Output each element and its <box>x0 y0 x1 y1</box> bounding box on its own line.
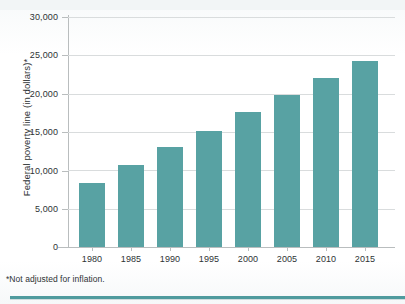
x-tick-label-2015: 2015 <box>341 254 389 264</box>
gridline-30000 <box>68 17 395 18</box>
chart-figure: Federal poverty line (in dollars)* 30,00… <box>0 0 405 304</box>
x-tick-mark <box>92 247 93 251</box>
bar-1990 <box>157 147 183 247</box>
x-tick-mark <box>248 247 249 251</box>
bar-2000 <box>235 112 261 247</box>
y-tick-label: 5,000 <box>0 204 58 214</box>
bar-1980 <box>79 183 105 247</box>
x-tick-mark <box>209 247 210 251</box>
y-axis-labels: 30,000 25,000 20,000 15,000 10,000 5,000… <box>0 0 58 304</box>
plot-area <box>68 17 395 247</box>
y-tick-label: 10,000 <box>0 166 58 176</box>
chart-footnote: *Not adjusted for inflation. <box>6 274 105 284</box>
x-tick-mark <box>131 247 132 251</box>
bar-1985 <box>118 165 144 247</box>
gridline-25000 <box>68 55 395 56</box>
y-tick-label: 0 <box>0 242 58 252</box>
gridline-15000 <box>68 132 395 133</box>
x-tick-mark <box>170 247 171 251</box>
scan-artifact <box>0 0 405 10</box>
bar-2010 <box>313 78 339 247</box>
accent-rule-shadow <box>10 299 405 300</box>
bar-2015 <box>352 61 378 247</box>
x-tick-mark <box>287 247 288 251</box>
y-tick-label: 30,000 <box>0 12 58 22</box>
x-tick-mark <box>326 247 327 251</box>
x-tick-mark <box>365 247 366 251</box>
y-tick-label: 20,000 <box>0 89 58 99</box>
gridline-20000 <box>68 94 395 95</box>
x-axis-line <box>58 247 395 248</box>
bar-2005 <box>274 95 300 247</box>
bar-1995 <box>196 131 222 247</box>
y-tick-label: 25,000 <box>0 50 58 60</box>
y-tick-label: 15,000 <box>0 127 58 137</box>
